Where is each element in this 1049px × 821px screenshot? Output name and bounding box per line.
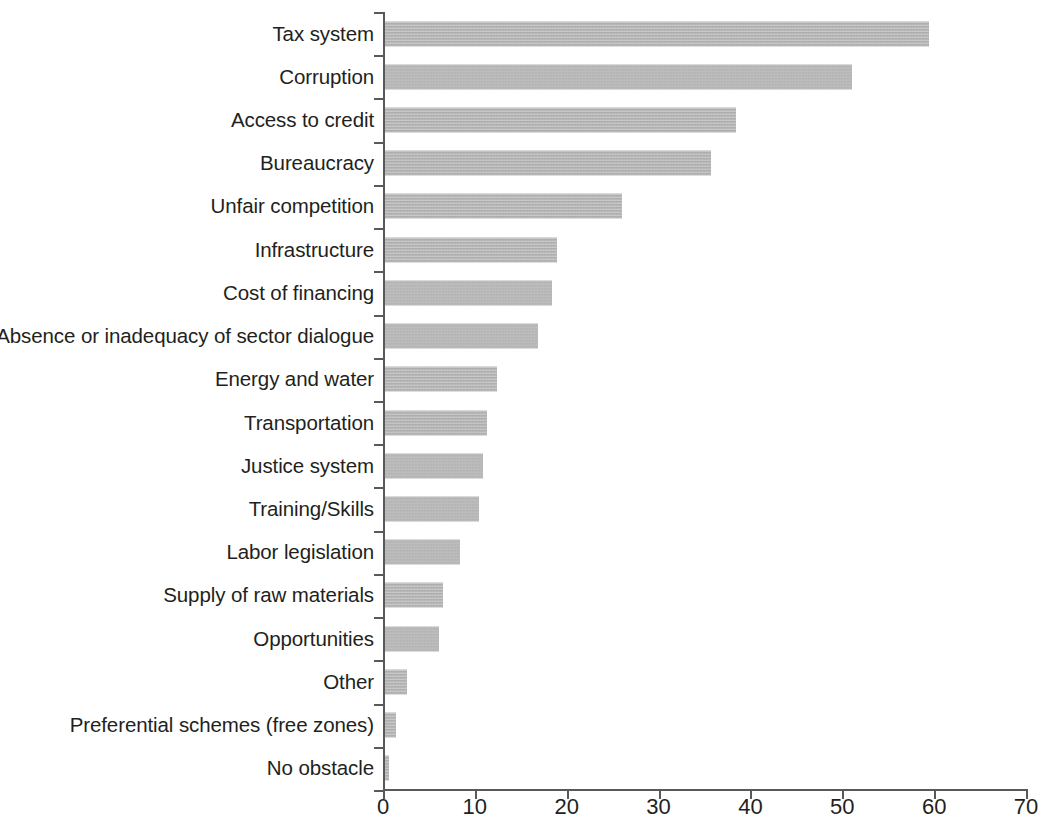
x-axis-tick-label: 50 <box>830 796 854 818</box>
bar <box>383 21 929 46</box>
table-row: Preferential schemes (free zones) <box>0 704 1049 747</box>
x-axis-tick-label: 20 <box>554 796 578 818</box>
bar <box>383 497 479 522</box>
x-axis-tick-label: 10 <box>463 796 487 818</box>
table-row: Supply of raw materials <box>0 574 1049 617</box>
bar <box>383 410 487 435</box>
y-axis-tick <box>374 401 384 403</box>
y-axis-tick <box>374 574 384 576</box>
y-axis-tick <box>374 228 384 230</box>
table-row: Corruption <box>0 55 1049 98</box>
category-label: Bureaucracy <box>260 153 374 174</box>
y-axis-tick <box>374 315 384 317</box>
y-axis-tick <box>374 660 384 662</box>
category-label: Preferential schemes (free zones) <box>70 715 374 736</box>
y-axis-tick <box>374 12 384 14</box>
category-label: Opportunities <box>253 628 374 649</box>
table-row: Tax system <box>0 12 1049 55</box>
x-axis-tick-label: 0 <box>377 796 389 818</box>
x-axis-line <box>383 789 1027 791</box>
table-row: No obstacle <box>0 747 1049 790</box>
category-label: Infrastructure <box>255 239 374 260</box>
category-label: Labor legislation <box>226 542 374 563</box>
table-row: Other <box>0 660 1049 703</box>
table-row: Opportunities <box>0 617 1049 660</box>
category-label: Unfair competition <box>211 196 374 217</box>
bar <box>383 280 552 305</box>
table-row: Training/Skills <box>0 487 1049 530</box>
table-row: Labor legislation <box>0 531 1049 574</box>
table-row: Access to credit <box>0 98 1049 141</box>
bar <box>383 108 736 133</box>
y-axis-tick <box>374 704 384 706</box>
y-axis-tick <box>374 487 384 489</box>
table-row: Transportation <box>0 401 1049 444</box>
y-axis-tick <box>374 98 384 100</box>
table-row: Justice system <box>0 444 1049 487</box>
x-axis-tick-label: 40 <box>738 796 762 818</box>
category-label: Transportation <box>244 412 374 433</box>
category-label: Tax system <box>272 23 374 44</box>
category-label: Energy and water <box>215 369 374 390</box>
x-axis-tick-label: 70 <box>1014 796 1038 818</box>
bar <box>383 367 497 392</box>
x-axis-tick-label: 30 <box>646 796 670 818</box>
table-row: Energy and water <box>0 358 1049 401</box>
bar <box>383 64 852 89</box>
table-row: Infrastructure <box>0 228 1049 271</box>
category-label: Corruption <box>279 67 374 88</box>
category-label: Training/Skills <box>249 499 374 520</box>
x-axis-tick-label: 60 <box>922 796 946 818</box>
table-row: Cost of financing <box>0 271 1049 314</box>
y-axis-tick <box>374 185 384 187</box>
category-label: No obstacle <box>267 758 374 779</box>
table-row: Unfair competition <box>0 185 1049 228</box>
y-axis-tick <box>374 747 384 749</box>
table-row: Bureaucracy <box>0 142 1049 185</box>
plot-area: Tax system Corruption Access to credit B… <box>0 0 1049 821</box>
y-axis-tick <box>374 358 384 360</box>
bar <box>383 324 538 349</box>
bar <box>383 626 439 651</box>
y-axis-tick <box>374 142 384 144</box>
category-label: Absence or inadequacy of sector dialogue <box>0 326 374 347</box>
category-label: Justice system <box>241 456 374 477</box>
y-axis-tick <box>374 271 384 273</box>
bar-chart: Tax system Corruption Access to credit B… <box>0 0 1049 821</box>
y-axis-tick <box>374 444 384 446</box>
table-row: Absence or inadequacy of sector dialogue <box>0 315 1049 358</box>
category-label: Other <box>323 672 374 693</box>
category-label: Supply of raw materials <box>163 585 374 606</box>
bar <box>383 237 557 262</box>
category-label: Access to credit <box>231 110 374 131</box>
bar <box>383 540 460 565</box>
bar <box>383 669 407 694</box>
bar <box>383 151 711 176</box>
bar <box>383 453 483 478</box>
y-axis-tick <box>374 531 384 533</box>
bar <box>383 194 622 219</box>
category-label: Cost of financing <box>223 283 374 304</box>
bar-rows: Tax system Corruption Access to credit B… <box>0 12 1049 790</box>
y-axis-tick <box>374 55 384 57</box>
bar <box>383 583 443 608</box>
y-axis-tick <box>374 617 384 619</box>
